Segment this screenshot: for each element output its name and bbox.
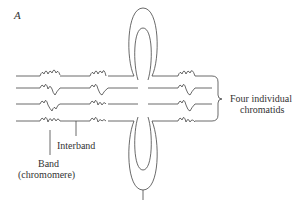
band-squiggle <box>90 71 106 76</box>
band-label: Band <box>38 158 59 169</box>
four-individual-label: Four individual <box>230 93 292 104</box>
band-squiggle <box>90 117 106 122</box>
band-squiggle <box>40 100 60 111</box>
bottom-loop-inner <box>135 117 152 170</box>
chromomere-label: (chromomere) <box>18 169 75 180</box>
band-squiggle <box>178 84 195 95</box>
panel-label: A <box>14 10 21 21</box>
brace <box>212 76 222 121</box>
band-squiggle <box>90 100 106 105</box>
bottom-loop-outer <box>129 121 157 190</box>
band-squiggle <box>40 84 60 95</box>
chromatid-diagram: A Four individual chromatids Interband B… <box>0 0 308 207</box>
band-squiggle <box>178 100 195 111</box>
band-squiggle <box>40 70 60 76</box>
band-squiggle <box>178 71 195 76</box>
top-loop-outer <box>129 8 157 76</box>
chromatids-label: chromatids <box>240 104 284 115</box>
band-squiggle <box>178 117 195 122</box>
interband-label: Interband <box>57 140 95 151</box>
top-loop-inner <box>135 28 152 80</box>
band-squiggle <box>90 84 108 95</box>
band-squiggle <box>40 117 60 122</box>
